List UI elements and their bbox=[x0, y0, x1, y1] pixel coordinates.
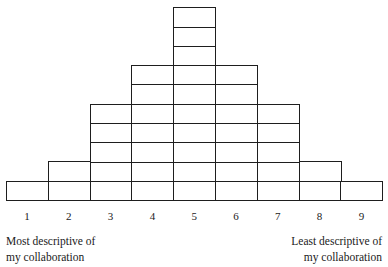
grid-box bbox=[48, 181, 91, 202]
grid-box bbox=[131, 181, 174, 202]
grid-box bbox=[173, 26, 216, 47]
grid-box bbox=[90, 123, 133, 144]
grid-box bbox=[90, 104, 133, 125]
column-number-label: 3 bbox=[90, 210, 132, 222]
grid-box bbox=[299, 181, 342, 202]
grid-box bbox=[173, 104, 216, 125]
grid-box bbox=[173, 65, 216, 86]
left-scale-caption: Most descriptive of my collaboration bbox=[6, 233, 95, 265]
grid-box bbox=[257, 104, 300, 125]
grid-box bbox=[257, 181, 300, 202]
grid-box bbox=[131, 104, 174, 125]
grid-box bbox=[173, 46, 216, 67]
grid-box bbox=[131, 84, 174, 105]
column-number-label: 4 bbox=[131, 210, 173, 222]
grid-box bbox=[215, 161, 258, 182]
grid-box bbox=[131, 65, 174, 86]
grid-box bbox=[215, 104, 258, 125]
grid-box bbox=[90, 161, 133, 182]
grid-box bbox=[215, 142, 258, 163]
right-caption-line1: Least descriptive of bbox=[291, 233, 382, 249]
grid-box bbox=[48, 161, 91, 182]
grid-box bbox=[6, 181, 49, 202]
right-caption-line2: my collaboration bbox=[291, 249, 382, 265]
grid-box bbox=[90, 181, 133, 202]
column-number-label: 5 bbox=[173, 210, 215, 222]
grid-box bbox=[215, 84, 258, 105]
grid-box bbox=[340, 181, 383, 202]
column-number-label: 7 bbox=[257, 210, 299, 222]
distribution-grid bbox=[0, 0, 388, 210]
grid-box bbox=[173, 123, 216, 144]
grid-box bbox=[257, 123, 300, 144]
grid-box bbox=[215, 181, 258, 202]
grid-box bbox=[257, 161, 300, 182]
column-number-label: 2 bbox=[48, 210, 90, 222]
column-number-label: 9 bbox=[340, 210, 382, 222]
grid-box bbox=[131, 142, 174, 163]
grid-box bbox=[90, 142, 133, 163]
right-scale-caption: Least descriptive of my collaboration bbox=[291, 233, 382, 265]
grid-box bbox=[173, 84, 216, 105]
column-number-label: 6 bbox=[215, 210, 257, 222]
grid-box bbox=[173, 142, 216, 163]
grid-box bbox=[173, 7, 216, 28]
grid-box bbox=[131, 123, 174, 144]
grid-box bbox=[257, 142, 300, 163]
left-caption-line2: my collaboration bbox=[6, 249, 95, 265]
grid-box bbox=[131, 161, 174, 182]
grid-box bbox=[215, 65, 258, 86]
grid-box bbox=[173, 161, 216, 182]
left-caption-line1: Most descriptive of bbox=[6, 233, 95, 249]
column-number-label: 8 bbox=[299, 210, 341, 222]
grid-box bbox=[173, 181, 216, 202]
column-number-label: 1 bbox=[6, 210, 48, 222]
grid-box bbox=[215, 123, 258, 144]
grid-box bbox=[299, 161, 342, 182]
